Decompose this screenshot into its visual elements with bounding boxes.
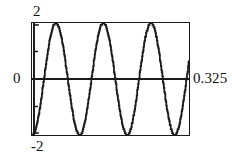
plot-frame: [31, 22, 190, 136]
y-axis-min-label: -2: [31, 139, 44, 154]
y-axis-max-label: 2: [33, 4, 41, 19]
y-axis-zero-label: 0: [13, 71, 21, 86]
plot-area: [32, 23, 189, 135]
sine-wave-figure: 2 0 -2 0.325: [0, 0, 232, 161]
waveform-canvas: [32, 23, 189, 135]
x-axis-max-label: 0.325: [193, 71, 227, 86]
